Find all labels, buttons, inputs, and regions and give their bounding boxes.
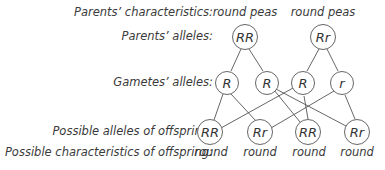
parent-2-alleles: Rr <box>316 30 332 45</box>
parent-1-alleles: RR <box>236 30 254 45</box>
offspring-4-characteristic: round <box>340 145 374 159</box>
offspring-2-alleles: Rr <box>253 125 269 140</box>
offspring-3-alleles: RR <box>299 125 317 140</box>
offspring-3-characteristic: round <box>292 145 326 159</box>
gamete-1-allele: R <box>222 76 231 91</box>
offspring-1-characteristic: round <box>194 145 228 159</box>
offspring-4-alleles: Rr <box>350 125 366 140</box>
gamete-2-allele: R <box>262 76 271 91</box>
offspring-2-characteristic: round <box>243 145 277 159</box>
offspring-1-alleles: RR <box>201 125 219 140</box>
gamete-3-allele: R <box>298 76 307 91</box>
punnett-tree-diagram: RR Rr R R R r RR Rr RR Rr <box>0 0 385 170</box>
